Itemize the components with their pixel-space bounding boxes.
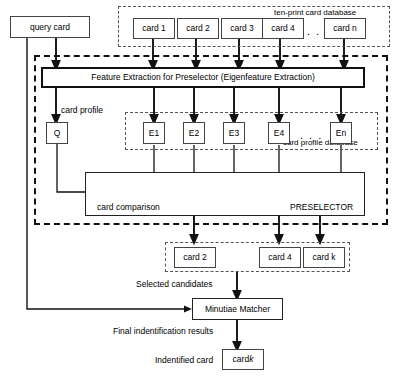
- profile-entry-e3[interactable]: E3: [223, 122, 245, 144]
- tenprint-card-4-label: card 4: [271, 24, 295, 33]
- tenprint-card-2[interactable]: card 2: [177, 18, 219, 39]
- tenprint-card-2-label: card 2: [186, 24, 210, 33]
- profile-entry-en-label: En: [336, 129, 346, 138]
- tenprint-card-n[interactable]: card n: [324, 18, 366, 39]
- query-profile-label: Q: [54, 129, 61, 138]
- tenprint-card-3-label: card 3: [230, 24, 254, 33]
- query-profile-box[interactable]: Q: [46, 122, 68, 144]
- profile-entry-e3-label: E3: [229, 129, 239, 138]
- card-profile-label: card profile: [61, 106, 103, 115]
- candidate-card-k[interactable]: card k: [303, 247, 345, 268]
- profile-entry-e1[interactable]: E1: [143, 122, 165, 144]
- profile-entry-e4[interactable]: E4: [268, 122, 290, 144]
- candidate-card-2-label: card 2: [183, 253, 207, 262]
- profile-entry-e2-label: E2: [189, 129, 199, 138]
- profile-entries-ellipsis: . . .: [300, 130, 323, 141]
- identified-card-prefix: card: [233, 355, 250, 364]
- minutiae-matcher-box[interactable]: Minutiae Matcher: [192, 298, 283, 320]
- tenprint-card-1-label: card 1: [142, 24, 166, 33]
- tenprint-card-database-title: ten-print card database: [274, 9, 356, 17]
- candidate-card-k-label: card k: [312, 253, 335, 262]
- tenprint-card-1[interactable]: card 1: [133, 18, 175, 39]
- final-results-caption: Final indentification results: [113, 327, 213, 336]
- feature-extraction-box[interactable]: Feature Extraction for Preselector (Eige…: [41, 67, 365, 88]
- profile-entry-e4-label: E4: [274, 129, 284, 138]
- candidate-card-4-label: card 4: [268, 253, 292, 262]
- feature-extraction-label: Feature Extraction for Preselector (Eige…: [91, 73, 314, 82]
- preselector-title: PRESELECTOR: [290, 203, 353, 212]
- identified-card-suffix: k: [249, 355, 253, 364]
- tenprint-card-3[interactable]: card 3: [221, 18, 263, 39]
- minutiae-matcher-label: Minutiae Matcher: [205, 305, 270, 314]
- tenprint-card-4[interactable]: card 4: [262, 18, 304, 39]
- block-diagram: ten-print card database card 1 card 2 ca…: [0, 0, 402, 379]
- card-comparison-label: card comparison: [97, 203, 160, 212]
- query-card-box[interactable]: query card: [10, 16, 90, 38]
- selected-candidates-caption: Selected candidates: [136, 280, 213, 289]
- identified-card-caption: Indentified card: [155, 356, 213, 365]
- query-card-label: query card: [30, 23, 70, 32]
- profile-entry-e2[interactable]: E2: [183, 122, 205, 144]
- profile-entry-e1-label: E1: [149, 129, 159, 138]
- candidate-card-4[interactable]: card 4: [259, 247, 301, 268]
- identified-card-box[interactable]: card k: [222, 349, 264, 370]
- profile-entry-en[interactable]: En: [330, 122, 352, 144]
- candidate-card-2[interactable]: card 2: [174, 247, 216, 268]
- tenprint-card-n-label: card n: [333, 24, 357, 33]
